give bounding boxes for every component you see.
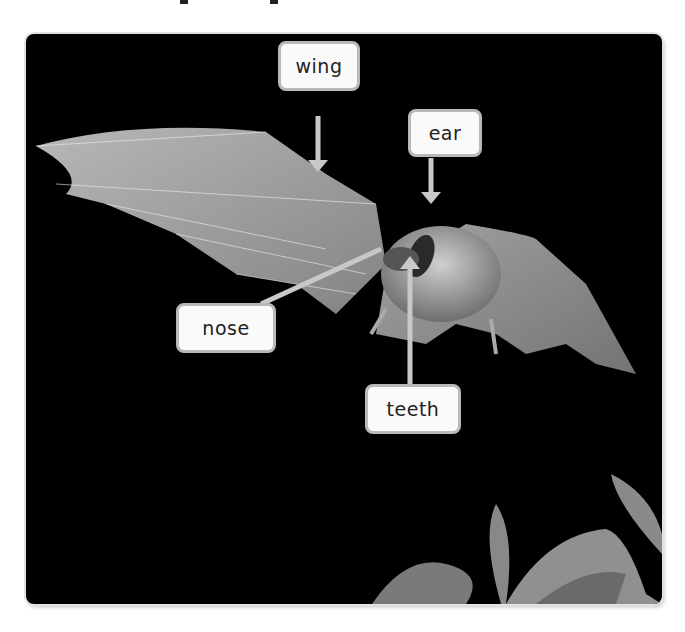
label-text: nose <box>202 317 249 339</box>
label-text: wing <box>296 55 343 77</box>
label-teeth: teeth <box>365 384 461 434</box>
label-ear: ear <box>408 109 482 157</box>
bat-photo <box>26 34 662 604</box>
cropped-glyph <box>270 0 278 4</box>
label-text: ear <box>429 122 462 144</box>
label-text: teeth <box>387 398 440 420</box>
label-nose: nose <box>176 303 276 353</box>
label-wing: wing <box>278 41 360 91</box>
left-wing <box>36 128 386 314</box>
bat-photo-frame: wing ear nose teeth <box>26 34 662 604</box>
cropped-glyph <box>180 0 188 4</box>
leaves <box>372 474 662 604</box>
